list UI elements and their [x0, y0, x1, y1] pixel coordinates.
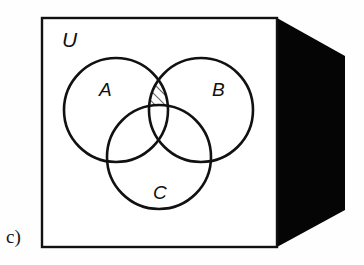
part-label: c): [6, 226, 21, 248]
universal-set-label: U: [62, 28, 78, 51]
venn-diagram-canvas: U A B C c): [0, 0, 364, 265]
set-label-b: B: [212, 79, 225, 100]
set-label-a: A: [98, 79, 112, 100]
venn-figure: U A B C c): [0, 0, 364, 265]
set-label-c: C: [153, 182, 167, 203]
box-depth-face: [277, 18, 345, 247]
